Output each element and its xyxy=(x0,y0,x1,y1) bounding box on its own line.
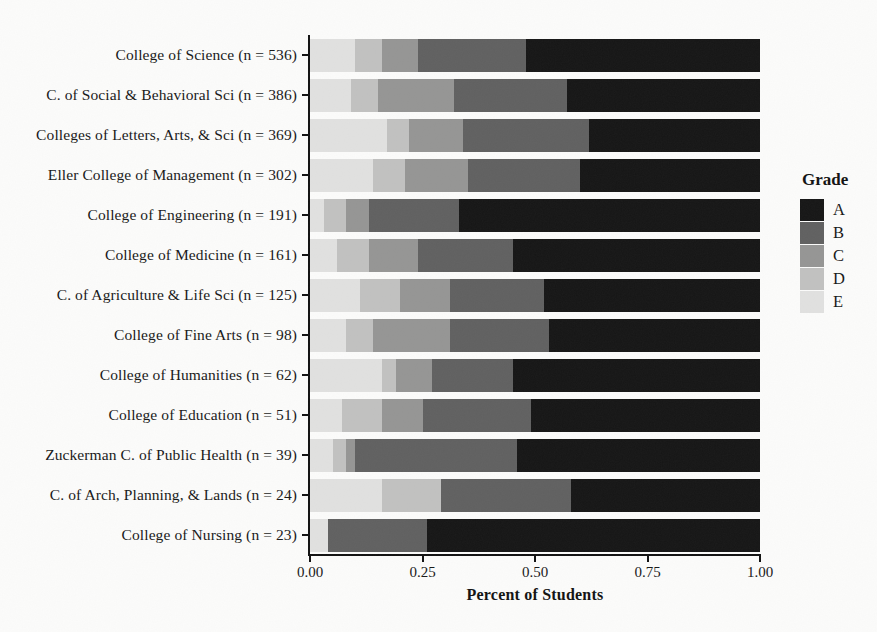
bar-segment-grade-A xyxy=(427,519,760,552)
stacked-bar xyxy=(310,199,760,232)
bar-segment-grade-D xyxy=(333,439,347,472)
bar-segment-grade-B xyxy=(468,159,581,192)
bar-segment-grade-C xyxy=(346,199,369,232)
bar-segment-grade-E xyxy=(310,199,324,232)
bar-row: Zuckerman C. of Public Health (n = 39) xyxy=(0,435,877,475)
bar-segment-grade-B xyxy=(450,279,545,312)
stacked-bar xyxy=(310,439,760,472)
bar-segment-grade-D xyxy=(337,239,369,272)
legend: Grade ABCDE xyxy=(800,170,877,313)
legend-swatch-grade-B xyxy=(800,222,824,244)
x-axis-tick-label: 0.50 xyxy=(522,564,548,581)
bar-segment-grade-B xyxy=(418,39,526,72)
bar-segment-grade-E xyxy=(310,439,333,472)
legend-key-label: B xyxy=(833,223,844,243)
stacked-bar xyxy=(310,119,760,152)
bar-segment-grade-D xyxy=(324,199,347,232)
legend-key: C xyxy=(800,244,877,267)
y-axis-label: College of Engineering (n = 191) xyxy=(0,206,297,224)
bar-segment-grade-A xyxy=(589,119,760,152)
x-axis-tick xyxy=(422,556,424,562)
bar-segment-grade-A xyxy=(513,359,761,392)
y-axis-label: Eller College of Management (n = 302) xyxy=(0,166,297,184)
bar-segment-grade-D xyxy=(373,159,405,192)
x-axis-tick-label: 0.25 xyxy=(409,564,435,581)
legend-swatch-grade-E xyxy=(800,291,824,313)
x-axis-tick-label: 0.75 xyxy=(634,564,660,581)
y-axis-label: C. of Agriculture & Life Sci (n = 125) xyxy=(0,286,297,304)
bar-segment-grade-A xyxy=(459,199,761,232)
legend-key-label: A xyxy=(833,200,845,220)
bar-segment-grade-A xyxy=(549,319,761,352)
legend-key-label: E xyxy=(833,292,843,312)
bar-segment-grade-D xyxy=(351,79,378,112)
x-axis-tick-label: 1.00 xyxy=(747,564,773,581)
bars-area: College of Science (n = 536)C. of Social… xyxy=(0,35,877,555)
legend-keys: ABCDE xyxy=(800,198,877,313)
stacked-bar xyxy=(310,79,760,112)
legend-key: A xyxy=(800,198,877,221)
bar-row: College of Education (n = 51) xyxy=(0,395,877,435)
bar-segment-grade-C xyxy=(400,279,450,312)
bar-segment-grade-B xyxy=(432,359,513,392)
bar-row: College of Engineering (n = 191) xyxy=(0,195,877,235)
legend-key: B xyxy=(800,221,877,244)
bar-row: C. of Social & Behavioral Sci (n = 386) xyxy=(0,75,877,115)
bar-segment-grade-C xyxy=(405,159,468,192)
y-axis-label: Zuckerman C. of Public Health (n = 39) xyxy=(0,446,297,464)
x-axis-tick xyxy=(759,556,761,562)
bar-segment-grade-B xyxy=(463,119,589,152)
stacked-bar xyxy=(310,239,760,272)
bar-segment-grade-A xyxy=(580,159,760,192)
x-axis-title: Percent of Students xyxy=(310,586,760,604)
y-axis-label: C. of Arch, Planning, & Lands (n = 24) xyxy=(0,486,297,504)
bar-segment-grade-D xyxy=(355,39,382,72)
bar-row: C. of Arch, Planning, & Lands (n = 24) xyxy=(0,475,877,515)
x-axis-tick xyxy=(534,556,536,562)
bar-segment-grade-E xyxy=(310,519,328,552)
bar-segment-grade-B xyxy=(450,319,549,352)
stacked-bar xyxy=(310,319,760,352)
bar-segment-grade-B xyxy=(369,199,459,232)
stacked-bar xyxy=(310,159,760,192)
y-axis-label: College of Nursing (n = 23) xyxy=(0,526,297,544)
bar-segment-grade-C xyxy=(378,79,455,112)
bar-segment-grade-B xyxy=(423,399,531,432)
bar-segment-grade-C xyxy=(373,319,450,352)
y-axis-label: College of Medicine (n = 161) xyxy=(0,246,297,264)
bar-segment-grade-B xyxy=(418,239,513,272)
figure: College of Science (n = 536)C. of Social… xyxy=(0,0,877,632)
bar-segment-grade-E xyxy=(310,399,342,432)
stacked-bar xyxy=(310,39,760,72)
stacked-bar xyxy=(310,279,760,312)
legend-swatch-grade-C xyxy=(800,245,824,267)
y-axis-label: College of Education (n = 51) xyxy=(0,406,297,424)
bar-segment-grade-C xyxy=(369,239,419,272)
bar-row: College of Science (n = 536) xyxy=(0,35,877,75)
bar-segment-grade-A xyxy=(571,479,760,512)
bar-segment-grade-E xyxy=(310,119,387,152)
y-axis-label: College of Humanities (n = 62) xyxy=(0,366,297,384)
bar-row: Eller College of Management (n = 302) xyxy=(0,155,877,195)
bar-segment-grade-A xyxy=(531,399,761,432)
bar-segment-grade-A xyxy=(513,239,761,272)
y-axis-label: College of Fine Arts (n = 98) xyxy=(0,326,297,344)
y-axis-label: College of Science (n = 536) xyxy=(0,46,297,64)
stacked-bar xyxy=(310,359,760,392)
bar-segment-grade-B xyxy=(328,519,427,552)
x-axis-tick xyxy=(309,556,311,562)
bar-row: College of Fine Arts (n = 98) xyxy=(0,315,877,355)
bar-row: College of Nursing (n = 23) xyxy=(0,515,877,555)
bar-row: College of Medicine (n = 161) xyxy=(0,235,877,275)
x-axis-tick xyxy=(647,556,649,562)
bar-segment-grade-A xyxy=(517,439,760,472)
bar-segment-grade-E xyxy=(310,479,382,512)
stacked-bar xyxy=(310,519,760,552)
bar-segment-grade-B xyxy=(454,79,567,112)
bar-segment-grade-D xyxy=(382,359,396,392)
bar-segment-grade-D xyxy=(346,319,373,352)
legend-swatch-grade-A xyxy=(800,199,824,221)
bar-row: C. of Agriculture & Life Sci (n = 125) xyxy=(0,275,877,315)
bar-row: College of Humanities (n = 62) xyxy=(0,355,877,395)
bar-row: Colleges of Letters, Arts, & Sci (n = 36… xyxy=(0,115,877,155)
